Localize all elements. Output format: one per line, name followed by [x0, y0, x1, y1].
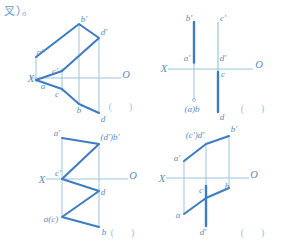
- axis-label-x: X: [28, 74, 34, 85]
- point-label-c-prime: c': [55, 169, 61, 178]
- frontal-projection-path: [36, 24, 99, 71]
- frontal-projection-path: [62, 138, 99, 179]
- point-label-a-prime: a': [37, 48, 43, 57]
- point-label-c: c: [221, 70, 225, 79]
- figure-top-right: X O b' c' a' d' c (a)b d ( ): [144, 0, 288, 122]
- point-label-d-prime: d': [200, 228, 206, 237]
- answer-blank-1[interactable]: ( ): [108, 100, 139, 112]
- point-label-b-prime: b': [231, 125, 237, 134]
- point-label-b: b: [102, 228, 107, 237]
- axis-label-x: X: [39, 175, 45, 186]
- figure-top-left: X O b' d' a' c' a c b d ( ): [0, 0, 144, 122]
- point-label-cd-prime-coincident: (c')d': [186, 131, 204, 140]
- point-label-a-prime: a': [184, 54, 190, 63]
- answer-blank-4[interactable]: ( ): [240, 226, 271, 238]
- figure-bottom-right: X O (c')d' b' a' c b a d' ( ): [144, 122, 288, 244]
- figure-bottom-left: X O a' (d')b' c' d a(c) b ( ): [0, 122, 144, 244]
- point-label-db-prime-coincident: (d')b': [101, 133, 120, 142]
- point-label-a: a: [176, 211, 181, 220]
- answer-blank-2[interactable]: ( ): [240, 102, 271, 114]
- point-label-b-prime: b': [81, 15, 87, 24]
- axis-label-o: O: [129, 171, 137, 182]
- point-label-b: b: [225, 182, 230, 191]
- axis-label-x: X: [161, 64, 167, 75]
- point-label-b-prime: b': [186, 14, 192, 23]
- point-label-d: d: [101, 188, 106, 197]
- point-label-d-prime: d': [220, 54, 226, 63]
- horizontal-projection-path: [62, 179, 99, 227]
- point-label-c: c: [199, 186, 203, 195]
- point-label-c-prime: c': [220, 14, 226, 23]
- point-label-ab-coincident: (a)b: [185, 105, 200, 114]
- point-label-d-prime: d': [101, 28, 107, 37]
- point-label-b: b: [77, 106, 82, 115]
- answer-blank-3[interactable]: ( ): [110, 226, 141, 238]
- point-label-ac-coincident: a(c): [44, 215, 59, 224]
- point-label-c-prime: c': [52, 67, 58, 76]
- point-label-d: d: [220, 113, 225, 122]
- axis-label-o: O: [122, 70, 130, 81]
- axis-label-o: O: [255, 60, 263, 71]
- frontal-closing-segment: [36, 71, 62, 80]
- axis-label-o: O: [250, 170, 258, 181]
- point-label-a-prime: a': [174, 154, 180, 163]
- exercise-page: 叉）。 X O b' d' a' c' a c b d ( ): [0, 0, 288, 245]
- point-label-a-prime: a': [54, 129, 60, 138]
- point-label-a: a: [41, 82, 46, 91]
- point-label-c: c: [55, 90, 59, 99]
- axis-label-x: X: [159, 174, 165, 185]
